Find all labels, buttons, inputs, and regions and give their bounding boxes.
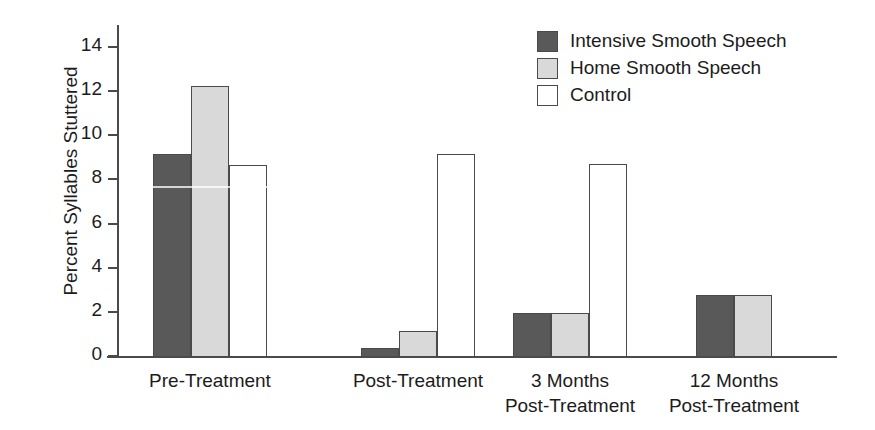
- legend-swatch-icon: [537, 31, 558, 52]
- y-axis-tick: [108, 311, 118, 313]
- legend-item[interactable]: Control: [537, 82, 787, 108]
- legend-item-label: Intensive Smooth Speech: [570, 30, 787, 52]
- y-axis-tick: [108, 267, 118, 269]
- legend-item[interactable]: Home Smooth Speech: [537, 55, 787, 81]
- legend-item-label: Home Smooth Speech: [570, 57, 761, 79]
- x-axis-category-label-line: 12 Months: [624, 368, 844, 393]
- bar: [437, 154, 475, 357]
- bar: [589, 164, 627, 357]
- y-axis-tick: [108, 178, 118, 180]
- y-axis-tick-label: 0: [70, 343, 102, 365]
- x-axis-category-label-line: Pre-Treatment: [100, 368, 320, 393]
- y-axis-tick-label: 4: [70, 255, 102, 277]
- bar: [399, 331, 437, 357]
- y-axis-tick-label: 6: [70, 211, 102, 233]
- bar: [361, 348, 399, 357]
- bar: [191, 86, 229, 357]
- bar: [153, 154, 191, 357]
- legend-item-label: Control: [570, 84, 631, 106]
- y-axis-tick-label: 10: [70, 122, 102, 144]
- chart-legend: Intensive Smooth SpeechHome Smooth Speec…: [537, 28, 787, 109]
- bar: [696, 295, 734, 357]
- y-axis-tick: [108, 134, 118, 136]
- y-axis-tick-label: 12: [70, 78, 102, 100]
- legend-swatch-icon: [537, 85, 558, 106]
- y-axis-tick-label: 2: [70, 299, 102, 321]
- bar: [513, 313, 551, 357]
- x-axis-category-label-line: Post-Treatment: [624, 393, 844, 418]
- y-axis-tick: [108, 46, 118, 48]
- y-axis-tick: [108, 90, 118, 92]
- x-axis-category-label: 12 MonthsPost-Treatment: [624, 368, 844, 418]
- legend-swatch-icon: [537, 58, 558, 79]
- y-axis-tick-label: 14: [70, 34, 102, 56]
- y-axis-tick-label: 8: [70, 166, 102, 188]
- x-axis-category-label: Pre-Treatment: [100, 368, 320, 393]
- bar: [551, 313, 589, 357]
- y-axis-tick: [108, 355, 118, 357]
- bar: [734, 295, 772, 357]
- bar: [229, 165, 267, 357]
- y-axis-tick: [108, 223, 118, 225]
- legend-item[interactable]: Intensive Smooth Speech: [537, 28, 787, 54]
- bar-chart-figure: Percent Syllables Stuttered 02468101214 …: [0, 0, 875, 430]
